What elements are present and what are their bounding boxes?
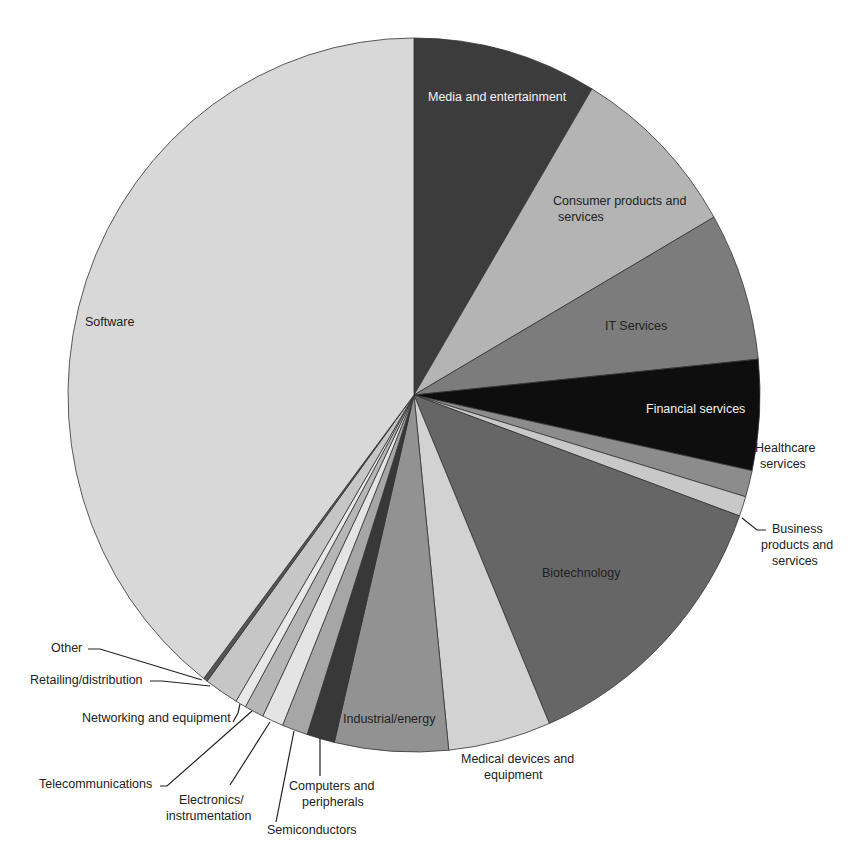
pie-slices (68, 38, 760, 752)
label-healthcare-line1: Healthcare (755, 440, 815, 457)
label-electronics-line2: instrumentation (166, 808, 251, 825)
label-consumer-line1: Consumer products and (553, 193, 686, 210)
label-media: Media and entertainment (428, 89, 566, 106)
pie-chart (0, 0, 867, 865)
label-networking: Networking and equipment (82, 710, 231, 727)
leader-retailing (150, 681, 210, 686)
leader-networking (233, 704, 240, 722)
label-computers-line2: peripherals (302, 794, 364, 811)
label-retailing: Retailing/distribution (30, 672, 143, 689)
label-computers-line1: Computers and (289, 778, 374, 795)
label-electronics-line1: Electronics/ (179, 792, 244, 809)
label-telecommunications: Telecommunications (39, 776, 152, 793)
label-business-line2: products and (761, 537, 833, 554)
label-business-line1: Business (772, 521, 823, 538)
label-biotechnology: Biotechnology (542, 565, 621, 582)
leader-business (742, 518, 766, 530)
label-industrial: Industrial/energy (343, 711, 435, 728)
label-consumer-line2: services (558, 209, 604, 226)
label-it-services: IT Services (605, 318, 667, 335)
label-business-line3: services (772, 553, 818, 570)
label-medical-line1: Medical devices and (461, 751, 574, 768)
label-financial: Financial services (646, 401, 745, 418)
label-healthcare-line2: services (760, 456, 806, 473)
label-medical-line2: equipment (484, 767, 542, 784)
label-semiconductors: Semiconductors (267, 822, 357, 839)
label-software: Software (85, 314, 134, 331)
leader-semiconductors (276, 731, 294, 822)
leader-electronics (230, 722, 270, 785)
label-other: Other (51, 640, 82, 657)
